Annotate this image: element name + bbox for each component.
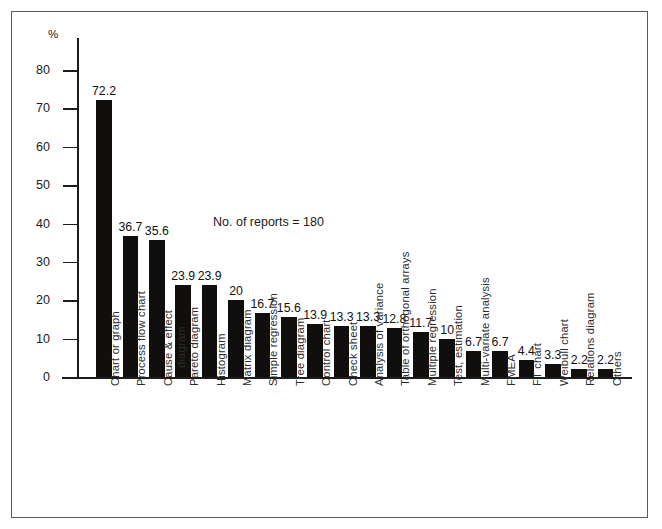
bar-value-label: 23.9 [198,269,222,283]
x-axis-category-label: Relations diagram [584,292,596,386]
y-axis-tick-label: 50 [14,178,50,192]
y-axis-tick-label: 10 [14,332,50,346]
x-axis-category-label: Matrix diagram [241,309,253,386]
bar-value-label: 20 [229,284,243,298]
x-axis-category-label: Tree diagram [294,317,306,386]
x-axis-category-label: Cause & effectdiagram [162,276,188,386]
y-axis-tick-label: 80 [14,63,50,77]
y-axis-tick-label: 30 [14,255,50,269]
x-axis-category-label: Check sheet [347,322,359,386]
x-axis-category-label: Table of orthogonal arrays [399,251,411,386]
y-axis-unit-label: % [48,28,58,40]
x-axis-category-label: Process flow chart [135,291,147,386]
y-axis-tick-label: 20 [14,293,50,307]
bar-value-label: 15.6 [277,301,301,315]
bar-value-label: 6.7 [491,335,508,349]
x-axis-category-label: Others [611,351,623,386]
y-axis-tick [63,70,77,72]
x-axis-category-label: FMEA [505,354,517,386]
y-axis-line [77,38,79,378]
y-axis-tick [63,108,77,110]
x-axis-category-label: Pareto diagram [188,307,200,386]
report-count-annotation: No. of reports = 180 [213,215,324,229]
x-axis-category-label: Weibull chart [558,319,570,386]
x-axis-category-label: Analysis of variance [373,283,385,387]
x-axis-category-label: Simple regression [267,293,279,386]
x-axis-category-label: Histogram [215,333,227,386]
x-axis-category-label: Multiple regression [426,288,438,386]
x-axis-category-label: Test, estimation [452,305,464,386]
plot-area: % 01020304050607080 72.236.735.623.923.9… [0,0,662,529]
y-axis-tick [63,185,77,187]
x-axis-category-label: Multi-variate analysis [479,277,491,386]
y-axis-tick [63,339,77,341]
bar-value-label: 36.7 [118,220,142,234]
y-axis-tick [63,300,77,302]
y-axis-tick-label: 70 [14,101,50,115]
x-axis-category-label: Control chart [320,319,332,386]
y-axis-tick-label: 40 [14,217,50,231]
y-axis-tick [63,224,77,226]
y-axis-tick [63,262,77,264]
x-axis-category-label: Chart or graph [109,311,121,386]
x-axis-category-label: FT chart [531,343,543,386]
bar-value-label: 35.6 [145,224,169,238]
y-axis-tick-label: 0 [14,370,50,384]
y-axis-tick-label: 60 [14,140,50,154]
bar-value-label: 72.2 [92,84,116,98]
chart-figure: % 01020304050607080 72.236.735.623.923.9… [0,0,662,529]
y-axis-tick [63,377,77,379]
y-axis-tick [63,147,77,149]
